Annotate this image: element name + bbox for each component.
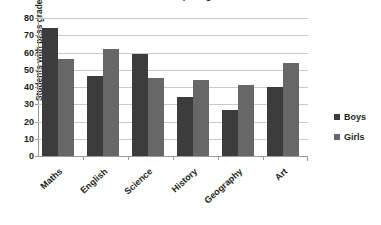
y-tick-label: 50 (0, 66, 34, 75)
bar-group (173, 18, 218, 156)
y-tick-label: 30 (0, 100, 34, 109)
y-tick-label: 40 (0, 83, 34, 92)
bar-boys-science (132, 54, 148, 156)
bar-girls-maths (58, 59, 74, 156)
y-tick-mark (35, 53, 38, 54)
legend: BoysGirls (334, 110, 381, 150)
bar-chart: Number of students with pass grades Stud… (0, 0, 381, 225)
bar-boys-history (177, 97, 193, 156)
x-tick-mark (173, 156, 174, 160)
bar-boys-art (267, 87, 283, 156)
chart-title: Number of students with pass grades (0, 0, 310, 1)
y-tick-mark (35, 18, 38, 19)
y-tick-mark (35, 156, 38, 157)
bar-girls-geography (238, 85, 254, 156)
y-tick-mark (35, 122, 38, 123)
y-tick-label: 70 (0, 31, 34, 40)
x-tick-mark (263, 156, 264, 160)
y-tick-mark (35, 139, 38, 140)
bar-boys-english (87, 76, 103, 156)
bar-girls-english (103, 49, 119, 156)
bar-group (263, 18, 308, 156)
bar-group (83, 18, 128, 156)
y-tick-mark (35, 87, 38, 88)
legend-swatch-girls (334, 134, 340, 140)
y-tick-label: 20 (0, 118, 34, 127)
y-tick-label: 10 (0, 135, 34, 144)
bar-girls-history (193, 80, 209, 156)
y-tick-mark (35, 70, 38, 71)
plot-area (38, 18, 308, 157)
x-tick-mark (83, 156, 84, 160)
y-tick-mark (35, 35, 38, 36)
bar-girls-science (148, 78, 164, 156)
legend-label-boys: Boys (344, 112, 366, 122)
y-tick-mark (35, 104, 38, 105)
y-tick-label: 80 (0, 14, 34, 23)
bar-group (218, 18, 263, 156)
x-tick-mark (128, 156, 129, 160)
bar-boys-geography (222, 110, 238, 156)
x-tick-mark (218, 156, 219, 160)
legend-label-girls: Girls (344, 132, 365, 142)
legend-item-boys[interactable]: Boys (334, 110, 381, 123)
bar-boys-maths (42, 28, 58, 156)
legend-item-girls[interactable]: Girls (334, 130, 381, 143)
bar-group (38, 18, 83, 156)
bar-group (128, 18, 173, 156)
y-tick-label: 0 (0, 152, 34, 161)
bar-girls-art (283, 63, 299, 156)
legend-swatch-boys (334, 114, 340, 120)
x-tick-mark (307, 157, 308, 161)
y-tick-label: 60 (0, 49, 34, 58)
